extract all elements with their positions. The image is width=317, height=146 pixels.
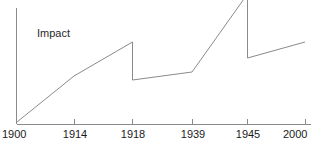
x-tick-label-1918: 1918 xyxy=(121,128,145,140)
impact-timeline-chart: Impact 1900 1914 1918 1939 1945 2000 xyxy=(0,0,317,146)
data-series-impact xyxy=(17,0,305,122)
x-tick-label-1939: 1939 xyxy=(181,128,205,140)
x-tick-label-1914: 1914 xyxy=(63,128,87,140)
x-tick-label-1945: 1945 xyxy=(236,128,260,140)
x-tick-label-1900: 1900 xyxy=(2,128,26,140)
x-tick-label-2000: 2000 xyxy=(283,128,307,140)
x-axis-ticks xyxy=(17,119,306,124)
axes-group xyxy=(17,8,312,125)
impact-line xyxy=(17,0,305,122)
chart-canvas xyxy=(0,0,317,146)
y-axis-label: Impact xyxy=(37,27,70,39)
